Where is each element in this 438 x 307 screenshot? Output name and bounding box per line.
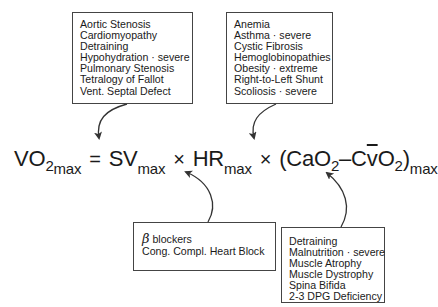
list-item: Tetralogy of Fallot: [80, 74, 186, 85]
venous-oxygen-limitations-box: Detraining Malnutrition · severe Muscle …: [281, 227, 385, 303]
heart-rate-term: HRmax: [193, 146, 252, 171]
arrow-bottom-right-to-avdiff: [327, 173, 346, 227]
list-item: Cong. Compl. Heart Block: [142, 245, 269, 257]
vo2max-equation: VO2max = SVmax × HRmax × (CaO2–CvO2)max: [14, 146, 438, 172]
av-o2-difference-term: (CaO2–CvO2)max: [279, 146, 437, 171]
vo2-term: VO2max: [14, 146, 81, 171]
list-item: Vent. Septal Defect: [80, 86, 186, 97]
arterial-oxygen-limitations-box: Anemia Asthma · severe Cystic Fibrosis H…: [226, 12, 333, 104]
multiply-sign: ×: [171, 148, 186, 170]
arrow-top-left-to-sv: [98, 104, 127, 138]
beta-symbol: β: [142, 231, 150, 246]
heart-rate-limitations-box: β blockers Cong. Compl. Heart Block: [133, 222, 276, 271]
multiply-sign: ×: [258, 148, 273, 170]
arrow-bottom-mid-to-hr: [186, 172, 213, 222]
stroke-volume-limitations-box: Aortic Stenosis Cardiomyopathy Detrainin…: [72, 12, 193, 104]
arrow-top-right-to-avdiff: [253, 104, 276, 138]
list-item: Scoliosis · severe: [234, 86, 326, 97]
stroke-volume-term: SVmax: [109, 146, 166, 171]
list-item: Right-to-Left Shunt: [234, 74, 326, 85]
list-item: 2-3 DPG Deficiency: [289, 291, 378, 302]
equals-sign: =: [87, 148, 102, 170]
list-item: β blockers: [142, 233, 269, 245]
